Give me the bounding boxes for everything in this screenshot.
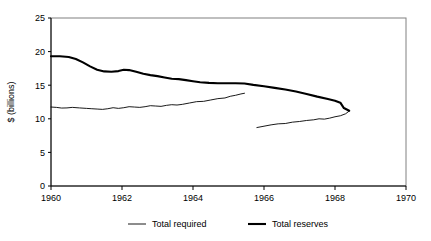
x-tick-label: 1968: [325, 193, 345, 203]
series-line-total-required: [51, 93, 244, 109]
y-tick-label: 25: [35, 13, 45, 23]
x-tick-label: 1962: [112, 193, 132, 203]
x-tick-label: 1960: [41, 193, 61, 203]
y-tick-label: 20: [35, 47, 45, 57]
chart-legend: Total requiredTotal reserves: [128, 219, 329, 229]
x-tick-label: 1970: [396, 193, 416, 203]
y-axis-title: $ (billions): [6, 81, 16, 122]
chart-container: 0510152025 196019621964196619681970 $ (b…: [0, 0, 431, 241]
series-line-total-required: [257, 111, 349, 127]
legend-label-total-required: Total required: [152, 219, 207, 229]
x-axis-ticks: 196019621964196619681970: [41, 186, 416, 203]
y-tick-label: 5: [40, 148, 45, 158]
plot-frame: [51, 18, 406, 186]
y-axis-ticks: 0510152025: [35, 13, 51, 191]
x-tick-label: 1964: [183, 193, 203, 203]
legend-label-total-reserves: Total reserves: [272, 219, 329, 229]
x-tick-label: 1966: [254, 193, 274, 203]
data-series-group: [51, 56, 349, 127]
y-tick-label: 15: [35, 81, 45, 91]
y-tick-label: 10: [35, 114, 45, 124]
line-chart: 0510152025 196019621964196619681970 $ (b…: [0, 0, 431, 241]
y-tick-label: 0: [40, 181, 45, 191]
series-line-total-reserves: [51, 56, 349, 110]
